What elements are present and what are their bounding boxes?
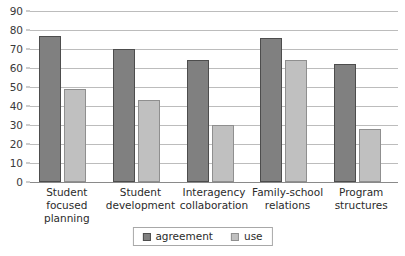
bar-agreement-1[interactable] bbox=[39, 36, 61, 182]
bar-use-5[interactable] bbox=[359, 129, 381, 182]
x-axis-category-label: Family-school relations bbox=[251, 186, 325, 212]
gridline bbox=[30, 30, 398, 31]
x-axis-category-label: Student focused planning bbox=[30, 186, 104, 225]
y-axis-tick-label: 70 bbox=[1, 44, 23, 55]
bar-chart: 0102030405060708090 Student focused plan… bbox=[0, 0, 405, 256]
chart-legend: agreement use bbox=[132, 227, 272, 246]
y-axis-tick-label: 10 bbox=[1, 158, 23, 169]
legend-item-use[interactable]: use bbox=[231, 231, 263, 242]
plot-area bbox=[30, 11, 398, 182]
bar-agreement-3[interactable] bbox=[187, 60, 209, 182]
bar-agreement-4[interactable] bbox=[260, 38, 282, 182]
legend-swatch-use-icon bbox=[231, 233, 239, 241]
y-axis-tick-label: 60 bbox=[1, 63, 23, 74]
y-axis-tick-label: 30 bbox=[1, 120, 23, 131]
axis-baseline bbox=[30, 182, 398, 183]
gridline bbox=[30, 49, 398, 50]
y-axis-tick-label: 50 bbox=[1, 82, 23, 93]
bar-use-4[interactable] bbox=[285, 60, 307, 182]
bar-use-3[interactable] bbox=[212, 125, 234, 182]
legend-label-use: use bbox=[244, 231, 263, 242]
y-axis-tick-label: 80 bbox=[1, 25, 23, 36]
y-axis-tick-label: 40 bbox=[1, 101, 23, 112]
gridline bbox=[30, 11, 398, 12]
x-axis-category-label: Program structures bbox=[324, 186, 398, 212]
y-axis-tick-label: 90 bbox=[1, 6, 23, 17]
bar-use-2[interactable] bbox=[138, 100, 160, 182]
x-axis-category-label: Interagency collaboration bbox=[177, 186, 251, 212]
legend-label-agreement: agreement bbox=[155, 231, 213, 242]
y-axis: 0102030405060708090 bbox=[0, 11, 30, 182]
y-axis-tick-label: 0 bbox=[1, 177, 23, 188]
x-axis-category-label: Student development bbox=[104, 186, 178, 212]
legend-item-agreement[interactable]: agreement bbox=[142, 231, 213, 242]
x-axis-labels: Student focused planningStudent developm… bbox=[30, 186, 398, 220]
legend-swatch-agreement-icon bbox=[142, 233, 150, 241]
y-axis-tick-label: 20 bbox=[1, 139, 23, 150]
bar-agreement-5[interactable] bbox=[334, 64, 356, 182]
bar-use-1[interactable] bbox=[64, 89, 86, 182]
bar-agreement-2[interactable] bbox=[113, 49, 135, 182]
